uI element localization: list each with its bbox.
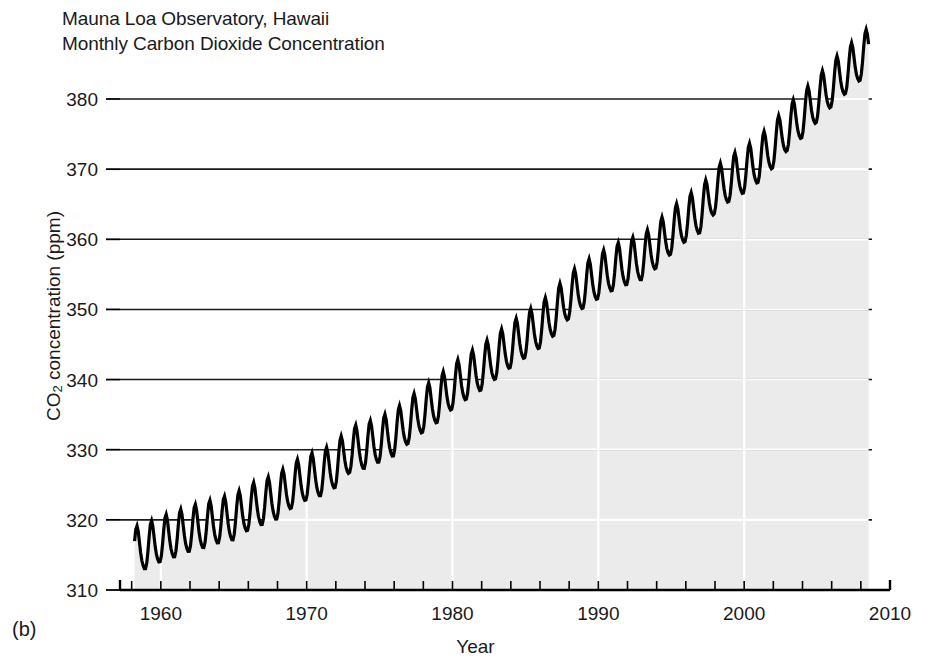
svg-text:2010: 2010 xyxy=(869,603,911,624)
svg-text:1960: 1960 xyxy=(140,603,182,624)
svg-text:330: 330 xyxy=(66,440,98,461)
svg-text:340: 340 xyxy=(66,370,98,391)
co2-line-chart: 310320330340350360370380 196019701980199… xyxy=(0,0,951,670)
svg-text:380: 380 xyxy=(66,89,98,110)
svg-text:1980: 1980 xyxy=(431,603,473,624)
svg-text:360: 360 xyxy=(66,229,98,250)
svg-text:350: 350 xyxy=(66,299,98,320)
svg-text:2000: 2000 xyxy=(723,603,765,624)
svg-text:1990: 1990 xyxy=(577,603,619,624)
y-tick-labels: 310320330340350360370380 xyxy=(66,89,98,601)
svg-text:1970: 1970 xyxy=(286,603,328,624)
svg-text:370: 370 xyxy=(66,159,98,180)
x-tick-labels: 196019701980199020002010 xyxy=(140,603,911,624)
svg-text:320: 320 xyxy=(66,510,98,531)
svg-text:310: 310 xyxy=(66,580,98,601)
figure-panel: Mauna Loa Observatory, Hawaii Monthly Ca… xyxy=(0,0,951,670)
